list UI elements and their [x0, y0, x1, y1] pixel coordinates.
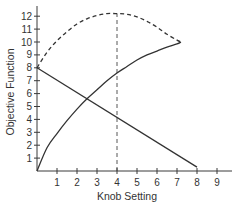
y-tick-label: 2	[26, 140, 32, 151]
y-tick-label: 1	[26, 153, 32, 164]
x-tick-label: 1	[54, 177, 60, 188]
x-tick-label: 7	[174, 177, 180, 188]
y-tick-label: 9	[26, 49, 32, 60]
y-tick-label: 3	[26, 127, 32, 138]
x-tick-label: 8	[194, 177, 200, 188]
x-tick-label: 5	[134, 177, 140, 188]
axes	[37, 6, 232, 171]
series-sum	[37, 13, 181, 67]
series-decreasing-linear	[37, 68, 197, 167]
y-tick-label: 8	[26, 62, 32, 73]
y-tick-label: 7	[26, 75, 32, 86]
x-tick-label: 4	[114, 177, 120, 188]
x-tick-label: 9	[214, 177, 220, 188]
x-tick-label: 2	[74, 177, 80, 188]
x-axis-label: Knob Setting	[97, 190, 157, 202]
y-tick-label: 6	[26, 88, 32, 99]
y-tick-label: 12	[21, 11, 33, 22]
chart: 123456789 123456789101112 Knob Setting O…	[0, 0, 240, 206]
y-tick-label: 4	[26, 114, 32, 125]
y-tick-label: 11	[22, 24, 33, 35]
x-tick-label: 6	[154, 177, 160, 188]
x-tick-label: 3	[94, 177, 100, 188]
series-increasing-concave	[37, 42, 181, 171]
y-tick-label: 5	[26, 101, 32, 112]
y-tick-label: 10	[21, 37, 33, 48]
y-axis-label: Objective Function	[4, 48, 16, 135]
